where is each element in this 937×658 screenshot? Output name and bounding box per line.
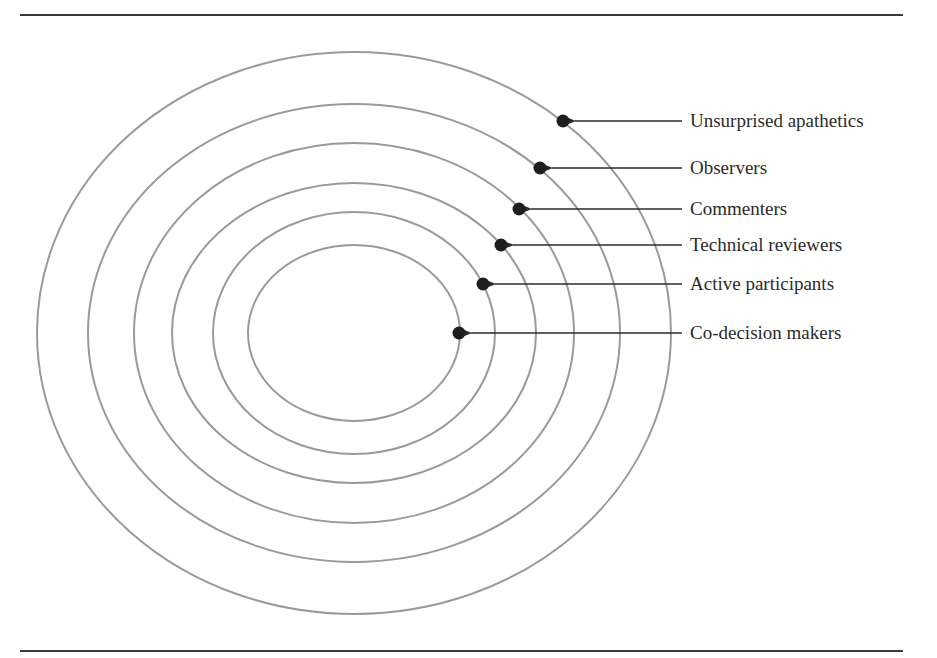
label-commenters: Commenters bbox=[690, 199, 787, 219]
dot-co-decision-makers bbox=[453, 327, 466, 340]
dot-technical-reviewers bbox=[495, 239, 508, 252]
label-unsurprised-apathetics: Unsurprised apathetics bbox=[690, 111, 864, 131]
dot-active-participants bbox=[477, 278, 490, 291]
label-co-decision-makers: Co-decision makers bbox=[690, 323, 841, 343]
dot-unsurprised-apathetics bbox=[557, 115, 570, 128]
label-technical-reviewers: Technical reviewers bbox=[690, 235, 842, 255]
dot-commenters bbox=[513, 203, 526, 216]
label-observers: Observers bbox=[690, 158, 767, 178]
ring-co-decision-makers bbox=[248, 245, 460, 421]
arrows-group bbox=[471, 121, 682, 333]
dot-observers bbox=[534, 162, 547, 175]
label-active-participants: Active participants bbox=[690, 274, 834, 294]
